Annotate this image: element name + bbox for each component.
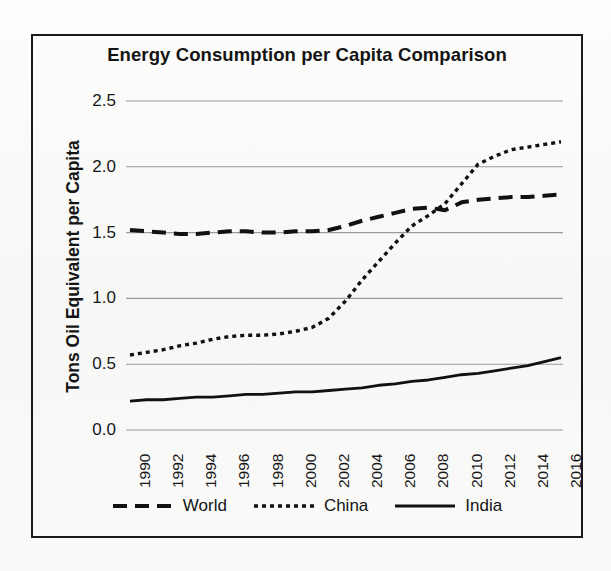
y-tick-label: 2.0 <box>62 158 116 175</box>
chart-title: Energy Consumption per Capita Comparison <box>31 44 583 66</box>
x-tick-label: 2004 <box>369 454 385 488</box>
x-tick-label: 2006 <box>402 454 418 488</box>
x-tick-label: 2016 <box>568 454 584 488</box>
y-tick-label: 0.0 <box>62 421 116 438</box>
legend-item-china[interactable]: China <box>253 496 368 516</box>
y-tick-label: 1.0 <box>62 289 116 306</box>
x-tick-label: 1994 <box>203 454 219 488</box>
x-tick-label: 2010 <box>469 454 485 488</box>
legend-label: China <box>324 496 368 516</box>
solid-line-swatch <box>394 499 456 513</box>
chart-legend: WorldChinaIndia <box>31 496 583 516</box>
x-tick-label: 2008 <box>435 454 451 488</box>
legend-label: World <box>183 496 227 516</box>
x-tick-label: 2002 <box>336 454 352 488</box>
x-tick-label: 2014 <box>535 454 551 488</box>
x-tick-label: 2012 <box>502 454 518 488</box>
y-tick-label: 2.5 <box>62 92 116 109</box>
x-tick-label: 1990 <box>137 454 153 488</box>
x-tick-label: 1996 <box>236 454 252 488</box>
legend-item-world[interactable]: World <box>112 496 227 516</box>
x-tick-label: 1992 <box>170 454 186 488</box>
y-axis-title: Tons Oil Equivalent per Capita <box>63 102 84 432</box>
x-tick-label: 2000 <box>303 454 319 488</box>
x-tick-label: 1998 <box>270 454 286 488</box>
legend-label: India <box>465 496 502 516</box>
scanned-figure-page: Energy Consumption per Capita Comparison… <box>0 0 611 571</box>
legend-item-india[interactable]: India <box>394 496 502 516</box>
y-tick-label: 0.5 <box>62 355 116 372</box>
dashed-line-swatch <box>112 499 174 513</box>
y-tick-label: 1.5 <box>62 224 116 241</box>
dotted-line-swatch <box>253 499 315 513</box>
